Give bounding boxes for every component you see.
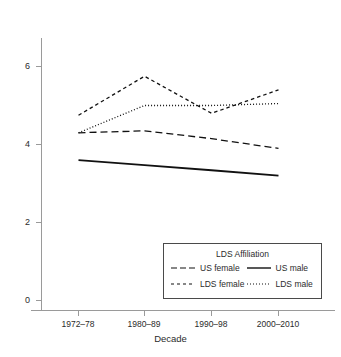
chart-legend: LDS Affiliation US female US male LDS <box>163 243 322 299</box>
legend-row-2: LDS female LDS male <box>164 276 321 292</box>
series-line-us-female <box>79 131 279 149</box>
series-line-lds-female <box>79 76 279 115</box>
legend-entry-us-male[interactable]: US male <box>246 263 322 273</box>
y-tick-label-6: 6 <box>14 61 30 71</box>
series-line-lds-male <box>79 104 279 133</box>
legend-label-lds-male: LDS male <box>276 279 313 289</box>
legend-row-1: US female US male <box>164 260 321 276</box>
legend-title: LDS Affiliation <box>164 249 321 260</box>
legend-sample-dotted-icon <box>246 279 272 289</box>
legend-entry-lds-female[interactable]: LDS female <box>170 279 246 289</box>
chart-series-layer <box>79 76 279 175</box>
y-tick-label-4: 4 <box>14 139 30 149</box>
y-tick-label-0: 0 <box>14 295 30 305</box>
legend-entry-lds-male[interactable]: LDS male <box>246 279 322 289</box>
series-line-us-male <box>79 160 279 176</box>
x-tick-label-2000-2010: 2000–2010 <box>243 319 313 329</box>
legend-sample-solid-icon <box>246 263 272 273</box>
x-axis-title: Decade <box>0 333 341 344</box>
x-tick-label-1980-89: 1980–89 <box>109 319 179 329</box>
legend-sample-long-dash-icon <box>170 263 196 273</box>
chart-plot-area <box>0 0 341 357</box>
x-tick-label-1972-78: 1972–78 <box>43 319 113 329</box>
y-tick-label-2: 2 <box>14 217 30 227</box>
legend-sample-short-dash-icon <box>170 279 196 289</box>
legend-label-us-male: US male <box>276 263 309 273</box>
legend-label-lds-female: LDS female <box>200 279 244 289</box>
legend-entry-us-female[interactable]: US female <box>170 263 246 273</box>
legend-label-us-female: US female <box>200 263 240 273</box>
chart-figure: 6 4 2 0 1972–78 1980–89 1990–98 2000–201… <box>0 0 341 357</box>
x-tick-label-1990-98: 1990–98 <box>176 319 246 329</box>
